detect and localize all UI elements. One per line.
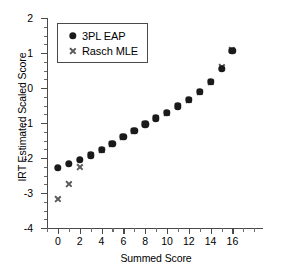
x-axis-tick-label: 14 [205, 236, 217, 247]
x-axis-minor-tick [112, 228, 113, 232]
legend-circle-marker-icon [65, 29, 82, 43]
x-axis-tick: 4 [102, 228, 103, 234]
x-axis-minor-tick [243, 228, 244, 232]
y-axis-minor-tick [44, 97, 48, 98]
x-axis-tick-label: 16 [227, 236, 239, 247]
x-axis-tick-label: 10 [161, 236, 173, 247]
legend-item-3pl-eap: 3PL EAP [65, 28, 138, 43]
y-axis-minor-tick [44, 149, 48, 150]
x-axis-label: Summed Score [58, 252, 254, 264]
scatter-chart-figure: IRT Estimated Scaled Score Summed Score … [0, 0, 287, 277]
x-axis-tick: 10 [167, 228, 168, 234]
y-axis-minor-tick [44, 44, 48, 45]
y-axis-tick-label: 0 [27, 83, 33, 93]
y-axis-tick-label: -2 [24, 153, 33, 163]
x-axis-tick: 14 [211, 228, 212, 234]
y-axis-tick-label: -4 [24, 223, 33, 233]
x-axis-minor-tick [178, 228, 179, 232]
x-axis-tick-label: 12 [183, 236, 195, 247]
legend-label-3pl-eap: 3PL EAP [82, 30, 126, 42]
x-axis-tick: 0 [58, 228, 59, 234]
x-axis-minor-tick [254, 228, 255, 232]
x-axis-minor-tick [69, 228, 70, 232]
y-axis-tick: 1 [41, 53, 47, 54]
chart-legend: 3PL EAP Rasch MLE [57, 23, 148, 63]
x-axis-tick-label: 2 [77, 236, 83, 247]
y-axis-minor-tick [44, 184, 48, 185]
y-axis-minor-tick [44, 62, 48, 63]
y-axis-minor-tick [44, 219, 48, 220]
data-point [54, 195, 62, 203]
x-axis-tick: 2 [80, 228, 81, 234]
x-axis-tick: 12 [189, 228, 190, 234]
data-point [65, 180, 73, 188]
data-point [76, 163, 84, 171]
y-axis-tick: -1 [41, 123, 47, 124]
y-axis-minor-tick [44, 114, 48, 115]
y-axis-tick-label: -1 [24, 118, 33, 128]
y-axis-minor-tick [44, 141, 48, 142]
y-axis-minor-tick [44, 176, 48, 177]
y-axis-minor-tick [44, 202, 48, 203]
y-axis-spine [47, 18, 48, 228]
y-axis-minor-tick [44, 36, 48, 37]
x-axis-tick-label: 4 [99, 236, 105, 247]
y-axis-tick-label: 1 [27, 48, 33, 58]
y-axis-minor-tick [44, 167, 48, 168]
x-axis-minor-tick [222, 228, 223, 232]
x-axis-tick-label: 8 [142, 236, 148, 247]
y-axis-minor-tick [44, 106, 48, 107]
y-axis-minor-tick [44, 79, 48, 80]
y-axis-tick: -2 [41, 158, 47, 159]
y-axis-minor-tick [44, 27, 48, 28]
x-axis-minor-tick [200, 228, 201, 232]
y-axis-minor-tick [44, 132, 48, 133]
legend-item-rasch-mle: Rasch MLE [65, 43, 138, 58]
x-axis-minor-tick [91, 228, 92, 232]
data-point [54, 164, 61, 171]
x-axis-tick-label: 0 [55, 236, 61, 247]
y-axis-minor-tick [44, 211, 48, 212]
y-axis-tick: 0 [41, 88, 47, 89]
x-axis-tick: 6 [123, 228, 124, 234]
x-axis-minor-tick [47, 228, 48, 232]
legend-cross-marker-icon [65, 44, 82, 58]
y-axis-tick-label: -3 [24, 188, 33, 198]
y-axis-tick: 2 [41, 18, 47, 19]
y-axis-tick: -3 [41, 193, 47, 194]
legend-label-rasch-mle: Rasch MLE [82, 45, 138, 57]
x-axis-tick: 16 [232, 228, 233, 234]
x-axis-tick: 8 [145, 228, 146, 234]
data-point [65, 160, 72, 167]
y-axis-tick-label: 2 [27, 13, 33, 23]
x-axis-minor-tick [156, 228, 157, 232]
x-axis-tick-label: 6 [120, 236, 126, 247]
y-axis-minor-tick [44, 71, 48, 72]
x-axis-minor-tick [134, 228, 135, 232]
